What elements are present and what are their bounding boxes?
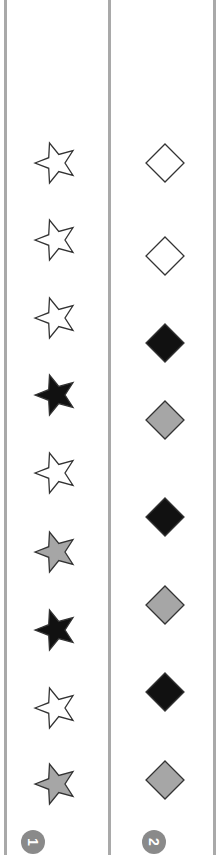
- badge-label: 2: [142, 838, 166, 846]
- diamond-icon: [141, 232, 189, 280]
- star-icon: [31, 216, 79, 264]
- star-icon: [31, 606, 79, 654]
- star-icon: [31, 139, 79, 187]
- badge-label: 1: [21, 838, 45, 846]
- diamond-icon: [141, 668, 189, 716]
- column-badge-1: 1: [21, 830, 45, 854]
- diamond-icon: [141, 581, 189, 629]
- diamond-icon: [141, 139, 189, 187]
- diamond-icon: [141, 756, 189, 804]
- diamond-icon: [141, 493, 189, 541]
- star-icon: [31, 684, 79, 732]
- star-icon: [31, 449, 79, 497]
- star-icon: [31, 371, 79, 419]
- column-divider-right: [213, 0, 216, 855]
- star-icon: [31, 760, 79, 808]
- column-badge-2: 2: [142, 830, 166, 854]
- diamond-icon: [141, 319, 189, 367]
- diamond-icon: [141, 396, 189, 444]
- star-icon: [31, 528, 79, 576]
- star-icon: [31, 294, 79, 342]
